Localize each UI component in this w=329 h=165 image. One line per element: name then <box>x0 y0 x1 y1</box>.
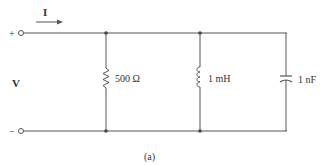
plus-terminal <box>19 31 24 36</box>
resistor-label: 500 Ω <box>115 73 140 84</box>
figure-caption: (a) <box>144 151 155 163</box>
inductor-label: 1 mH <box>208 73 231 84</box>
current-arrow <box>36 20 63 25</box>
current-label: I <box>43 6 47 18</box>
minus-terminal-label: − <box>9 126 15 137</box>
voltage-label: V <box>12 77 20 89</box>
circuit-diagram: I + − V 500 Ω 1 mH 1 nF (a) <box>0 0 329 165</box>
inductor <box>197 33 200 131</box>
resistor <box>103 33 109 131</box>
plus-terminal-label: + <box>9 28 15 39</box>
capacitor-label: 1 nF <box>298 74 317 85</box>
minus-terminal <box>19 129 24 134</box>
capacitor <box>280 33 292 131</box>
